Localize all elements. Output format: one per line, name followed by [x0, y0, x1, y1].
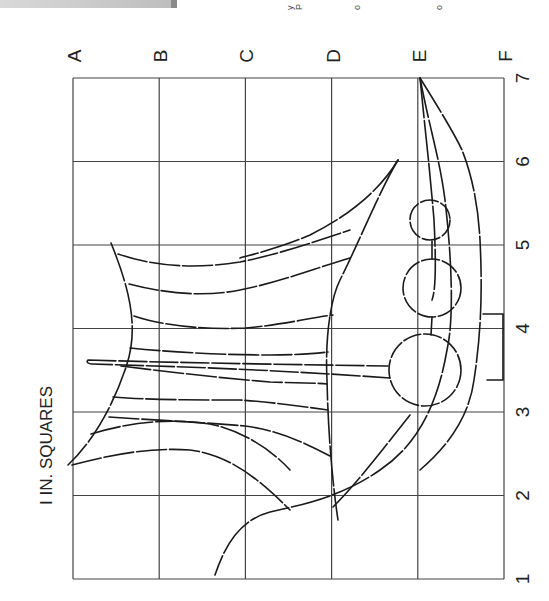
grid-row-label: 4 [512, 323, 533, 334]
grid-column-label: B [150, 50, 171, 63]
grid-column-label: A [64, 49, 85, 62]
sail-seam [72, 449, 290, 510]
sail-top-curve [240, 160, 398, 258]
scale-note: I IN. SQUARES [37, 386, 56, 505]
mast [87, 360, 390, 378]
grid-row-label: 6 [512, 156, 533, 167]
sail-seam [113, 397, 328, 410]
ship-pattern-diagram: ABCDEF7654321 I IN. SQUARES [0, 0, 549, 601]
rudder [483, 314, 503, 380]
grid-row-label: 7 [512, 73, 533, 84]
grid-row-label: 5 [512, 240, 533, 251]
shield [410, 200, 450, 240]
ship-drawing [68, 78, 503, 575]
prow-curve [333, 415, 410, 507]
grid-row-label: 1 [512, 574, 533, 585]
grid-column-label: F [495, 50, 516, 62]
grid-column-label: D [323, 49, 344, 63]
sail-right-edge [327, 160, 398, 520]
grid [73, 78, 504, 579]
grid-row-label: 2 [512, 490, 533, 501]
sail-seam [134, 315, 333, 328]
grid-column-label: E [409, 50, 430, 63]
grid-column-label: C [236, 49, 257, 63]
shield-connector [431, 241, 432, 335]
shield [403, 259, 461, 317]
sail-seam [118, 230, 350, 266]
grid-row-label: 3 [512, 407, 533, 418]
hull-curve [215, 78, 451, 575]
shield [389, 334, 461, 406]
